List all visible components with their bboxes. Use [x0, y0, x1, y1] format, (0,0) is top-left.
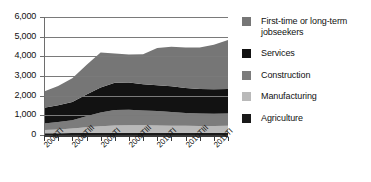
- y-axis-tick-label: 6,000: [0, 11, 36, 21]
- y-tick: [40, 76, 44, 77]
- legend-swatch-icon: [242, 17, 251, 26]
- legend-item[interactable]: First-time or long-term jobseekers: [242, 16, 370, 37]
- legend-swatch-icon: [242, 49, 251, 58]
- gridline: [44, 115, 228, 116]
- chart-legend: First-time or long-term jobseekersServic…: [242, 16, 370, 134]
- y-tick: [40, 96, 44, 97]
- y-axis-tick-label: 1,000: [0, 109, 36, 119]
- gridline: [44, 96, 228, 97]
- y-axis-line: [44, 17, 45, 135]
- legend-item[interactable]: Construction: [242, 70, 370, 81]
- legend-item[interactable]: Manufacturing: [242, 91, 370, 102]
- y-tick: [40, 56, 44, 57]
- legend-item-label: Manufacturing: [261, 91, 317, 102]
- legend-swatch-icon: [242, 92, 251, 101]
- plot-wrapper: 01,0002,0003,0004,0005,0006,000 2008TI20…: [44, 17, 228, 135]
- legend-item-label: Construction: [261, 70, 310, 81]
- gridline: [44, 37, 228, 38]
- legend-item[interactable]: Services: [242, 48, 370, 59]
- gridline: [44, 17, 228, 18]
- chart-figure: 01,0002,0003,0004,0005,0006,000 2008TI20…: [0, 0, 371, 182]
- y-axis-tick-label: 0: [0, 129, 36, 139]
- y-axis-tick-label: 3,000: [0, 70, 36, 80]
- y-axis-tick-label: 4,000: [0, 50, 36, 60]
- y-axis-tick-label: 2,000: [0, 90, 36, 100]
- legend-item-label: First-time or long-term jobseekers: [261, 16, 370, 37]
- legend-item[interactable]: Agriculture: [242, 113, 370, 124]
- y-tick: [40, 37, 44, 38]
- y-tick: [40, 17, 44, 18]
- legend-swatch-icon: [242, 114, 251, 123]
- plot-area: [44, 17, 228, 135]
- legend-swatch-icon: [242, 71, 251, 80]
- y-tick: [40, 115, 44, 116]
- legend-item-label: Agriculture: [261, 113, 303, 124]
- y-axis-tick-label: 5,000: [0, 31, 36, 41]
- legend-item-label: Services: [261, 48, 295, 59]
- gridline: [44, 56, 228, 57]
- gridline: [44, 76, 228, 77]
- y-tick: [40, 135, 44, 136]
